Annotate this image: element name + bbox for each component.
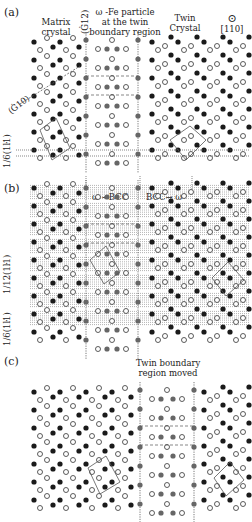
crystal-lattice-diagram <box>0 0 252 522</box>
